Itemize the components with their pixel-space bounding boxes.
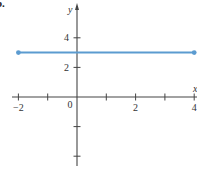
- endpoint-dot: [16, 50, 21, 55]
- y-axis-label: y: [67, 4, 73, 15]
- x-tick-label: 2: [133, 102, 138, 113]
- endpoint-dot: [192, 50, 197, 55]
- x-tick-labels: −2024: [13, 99, 197, 113]
- chart: y x −2024 42: [0, 0, 197, 170]
- y-axis-arrow-icon: [75, 3, 79, 10]
- y-tick-label: 2: [64, 62, 69, 73]
- x-tick-label: −2: [13, 102, 24, 113]
- x-axis-label: x: [192, 83, 197, 94]
- x-tick-label: 4: [192, 102, 197, 113]
- y-tick-label: 4: [64, 32, 69, 43]
- x-tick-label: 0: [68, 99, 73, 110]
- data-series: [16, 50, 197, 55]
